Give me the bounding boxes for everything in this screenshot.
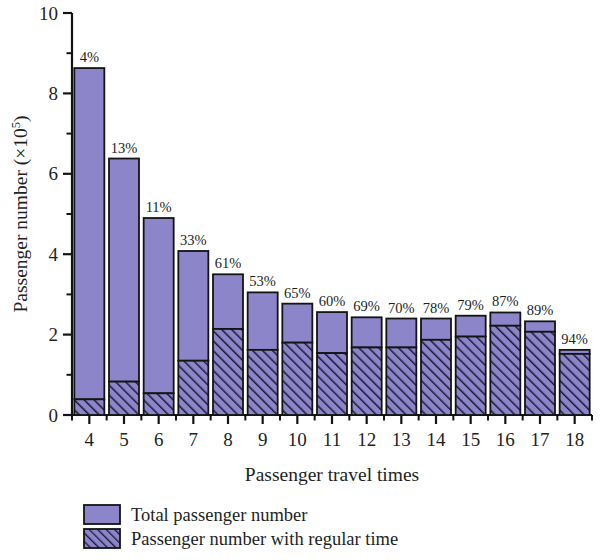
bar-column <box>525 321 555 415</box>
chart-canvas: 0246810 4%13%11%33%61%53%65%60%69%70%78%… <box>0 0 612 560</box>
legend-swatch-total <box>84 505 120 524</box>
bar-regular-segment <box>421 340 451 415</box>
bar-column <box>109 159 139 415</box>
bar-regular-segment <box>74 399 104 415</box>
x-tick-label: 9 <box>258 429 268 450</box>
data-label: 60% <box>319 293 346 309</box>
data-label: 4% <box>80 49 99 65</box>
bar-column <box>248 292 278 415</box>
bar-total-segment <box>525 321 555 331</box>
bar-total-segment <box>74 68 104 399</box>
legend-swatch-regular <box>84 529 120 548</box>
data-label: 13% <box>111 140 138 156</box>
x-axis-title: Passenger travel times <box>245 464 419 485</box>
bar-column <box>456 316 486 415</box>
x-tick-label: 17 <box>531 429 550 450</box>
x-tick-label: 12 <box>357 429 376 450</box>
y-tick-label: 10 <box>39 3 58 24</box>
data-label: 11% <box>146 199 172 215</box>
x-tick-label: 6 <box>154 429 164 450</box>
data-label: 87% <box>492 293 519 309</box>
y-tick-label: 0 <box>49 405 59 426</box>
bar-regular-segment <box>560 354 590 415</box>
bar-column <box>386 319 416 415</box>
bar-chart-svg: 0246810 4%13%11%33%61%53%65%60%69%70%78%… <box>0 0 612 560</box>
data-label: 53% <box>249 273 276 289</box>
legend-label-total: Total passenger number <box>131 505 307 525</box>
data-label: 69% <box>353 298 380 314</box>
bar-regular-segment <box>490 326 520 415</box>
x-tick-label: 14 <box>427 429 447 450</box>
chart-figure: 0246810 4%13%11%33%61%53%65%60%69%70%78%… <box>0 0 612 560</box>
bar-regular-segment <box>213 329 243 415</box>
bar-column <box>144 218 174 415</box>
bar-total-segment <box>213 274 243 329</box>
bar-total-segment <box>282 304 312 343</box>
bar-total-segment <box>178 251 208 361</box>
data-label: 33% <box>180 232 207 248</box>
bar-regular-segment <box>317 353 347 415</box>
y-axis-title-text: Passenger number (×105) <box>9 115 32 312</box>
data-label: 61% <box>215 255 242 271</box>
data-label: 65% <box>284 285 311 301</box>
bar-regular-segment <box>282 343 312 415</box>
bar-regular-segment <box>352 347 382 415</box>
bar-column <box>178 251 208 415</box>
bar-column <box>421 319 451 415</box>
bar-regular-segment <box>386 347 416 415</box>
bar-total-segment <box>109 159 139 382</box>
bar-column <box>213 274 243 415</box>
bar-regular-segment <box>109 382 139 415</box>
bar-regular-segment <box>144 393 174 415</box>
bar-total-segment <box>317 312 347 353</box>
bar-total-segment <box>386 319 416 348</box>
x-tick-label: 10 <box>288 429 307 450</box>
y-tick-label: 2 <box>49 324 59 345</box>
bar-regular-segment <box>456 337 486 415</box>
y-axis-title: Passenger number (×105) <box>9 115 32 312</box>
y-tick-label: 6 <box>49 163 59 184</box>
x-axis-tick-labels: 456789101112131415161718 <box>85 429 585 450</box>
bar-column <box>74 68 104 415</box>
bar-regular-segment <box>248 350 278 415</box>
data-label: 78% <box>423 300 450 316</box>
x-tick-label: 5 <box>119 429 129 450</box>
y-tick-label: 8 <box>49 83 59 104</box>
x-tick-label: 11 <box>323 429 341 450</box>
data-label: 79% <box>457 297 484 313</box>
x-tick-label: 16 <box>496 429 515 450</box>
bar-total-segment <box>248 292 278 349</box>
x-tick-label: 18 <box>565 429 584 450</box>
bar-column <box>352 317 382 415</box>
x-tick-label: 13 <box>392 429 411 450</box>
bar-column <box>282 304 312 415</box>
x-tick-label: 8 <box>223 429 233 450</box>
bar-total-segment <box>456 316 486 337</box>
bar-total-segment <box>421 319 451 340</box>
x-tick-label: 15 <box>461 429 480 450</box>
x-tick-label: 7 <box>189 429 199 450</box>
bar-total-segment <box>352 317 382 347</box>
bar-column <box>317 312 347 415</box>
x-tick-label: 4 <box>85 429 95 450</box>
y-tick-label: 4 <box>49 244 59 265</box>
bar-column <box>560 350 590 415</box>
data-label: 94% <box>561 331 588 347</box>
data-label: 89% <box>527 302 554 318</box>
bar-total-segment <box>144 218 174 393</box>
legend-label-regular: Passenger number with regular time <box>131 529 398 549</box>
data-label: 70% <box>388 300 415 316</box>
bar-regular-segment <box>525 332 555 415</box>
bar-total-segment <box>490 312 520 325</box>
bar-column <box>490 312 520 415</box>
bar-regular-segment <box>178 361 208 415</box>
